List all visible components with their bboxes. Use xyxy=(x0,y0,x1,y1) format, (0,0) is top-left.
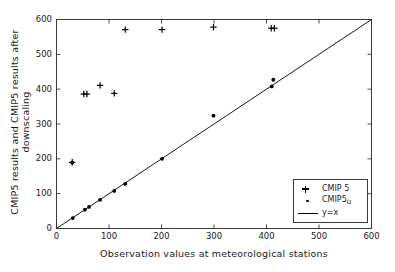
legend-item-cmip5d[interactable]: CMIP5D xyxy=(297,195,363,207)
legend-label-cmip5d: CMIP5D xyxy=(319,196,351,206)
plus-marker-icon xyxy=(297,183,319,195)
line-swatch-icon xyxy=(297,207,319,219)
legend-label-cmip5d-text: CMIP5 xyxy=(322,195,347,204)
chart-figure: 0100200300400500600 0100200300400500600 … xyxy=(0,0,395,272)
x-tick-label: 200 xyxy=(153,232,169,241)
y-axis-title: CMIP5 results and CMIP5 results after do… xyxy=(9,10,31,234)
x-tick-label: 100 xyxy=(101,232,117,241)
dot-marker-icon xyxy=(297,195,319,207)
x-tick-label: 500 xyxy=(311,232,327,241)
legend-label-yx: y=x xyxy=(319,209,338,217)
x-axis-ticklabels: 0100200300400500600 xyxy=(0,232,395,246)
x-axis-title: Observation values at meteorological sta… xyxy=(56,248,372,259)
x-tick-label: 600 xyxy=(363,232,379,241)
x-tick-label: 0 xyxy=(54,232,59,241)
legend-item-yx[interactable]: y=x xyxy=(297,207,363,219)
legend-label-cmip5d-subscript: D xyxy=(347,198,352,205)
legend-label-cmip5: CMIP 5 xyxy=(319,185,349,193)
x-tick-label: 300 xyxy=(206,232,222,241)
chart-legend[interactable]: CMIP 5 CMIP5D y=x xyxy=(293,179,368,223)
legend-item-cmip5[interactable]: CMIP 5 xyxy=(297,183,363,195)
x-tick-label: 400 xyxy=(258,232,274,241)
